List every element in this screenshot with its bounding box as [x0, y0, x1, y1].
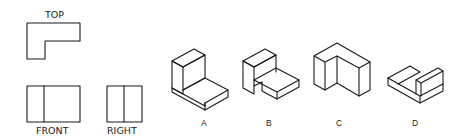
option-d-label: D — [412, 118, 418, 128]
option-b-label: B — [266, 118, 272, 128]
right-view-label: RIGHT — [107, 125, 137, 136]
option-a-label: A — [201, 118, 207, 128]
option-d-figure[interactable]: D — [388, 66, 443, 128]
top-view-label: TOP — [44, 9, 64, 20]
front-view: FRONT — [27, 86, 80, 136]
right-view: RIGHT — [107, 86, 142, 136]
top-view: TOP — [27, 9, 80, 59]
option-c-label: C — [336, 118, 342, 128]
option-b-figure[interactable]: B — [243, 49, 299, 128]
front-view-label: FRONT — [36, 125, 69, 136]
diagram-canvas: TOP FRONT RIGHT A B — [0, 0, 469, 140]
option-a-figure[interactable]: A — [172, 49, 228, 128]
option-c-figure[interactable]: C — [314, 43, 370, 128]
